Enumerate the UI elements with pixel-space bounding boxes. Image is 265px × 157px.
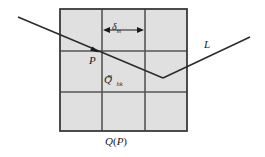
grid-cell-r0-c0 (60, 9, 102, 51)
grid-caption: Q(P) (105, 136, 127, 147)
figure-container: δm P Qmhk L Q(P) (0, 0, 265, 157)
ray-l-label: L (204, 39, 210, 50)
grid-cell-r2-c0 (60, 92, 102, 131)
grid-diagram-svg (0, 0, 265, 157)
grid-cell-r2-c2 (145, 92, 187, 131)
cell-size-label: δm (112, 22, 121, 32)
cell-q-label: Qmhk (104, 74, 123, 85)
grid-cell-r2-c1 (102, 92, 145, 131)
grid-caption-symbol: Q (105, 135, 113, 147)
grid-cell-r1-c2 (145, 51, 187, 92)
grid-cell-r0-c2 (145, 9, 187, 51)
grid-cells (60, 9, 187, 131)
cell-q-superscript: m (107, 72, 112, 79)
point-p-label: P (89, 55, 96, 66)
cell-size-symbol: δ (112, 21, 117, 32)
cell-size-subscript: m (117, 28, 121, 34)
grid-caption-close-paren: ) (123, 135, 127, 147)
cell-q-subscript: hk (117, 80, 123, 87)
